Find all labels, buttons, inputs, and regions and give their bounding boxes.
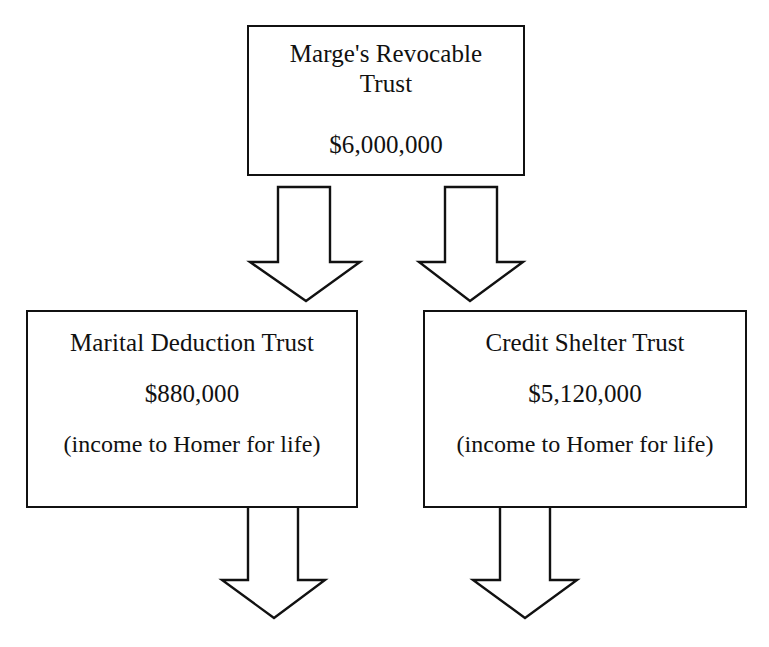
node-note: (income to Homer for life) [446,430,723,458]
node-title: Credit Shelter Trust [479,328,690,358]
node-credit-shelter-trust: Credit Shelter Trust $5,120,000 (income … [423,310,747,508]
node-marital-deduction-trust: Marital Deduction Trust $880,000 (income… [26,310,358,508]
node-title: Marge's Revocable Trust [284,39,488,98]
arrow-credit-outflow [473,508,577,618]
node-amount: $880,000 [145,380,240,409]
trust-flow-diagram: Marge's Revocable Trust $6,000,000 Marit… [0,0,769,647]
arrow-root-to-marital [250,187,360,301]
node-amount: $6,000,000 [329,131,443,160]
node-title: Marital Deduction Trust [64,328,320,358]
node-amount: $5,120,000 [528,380,642,409]
arrow-root-to-credit [419,187,523,301]
node-note: (income to Homer for life) [53,430,330,458]
node-marges-revocable-trust: Marge's Revocable Trust $6,000,000 [247,25,525,176]
arrow-marital-outflow [222,508,325,618]
